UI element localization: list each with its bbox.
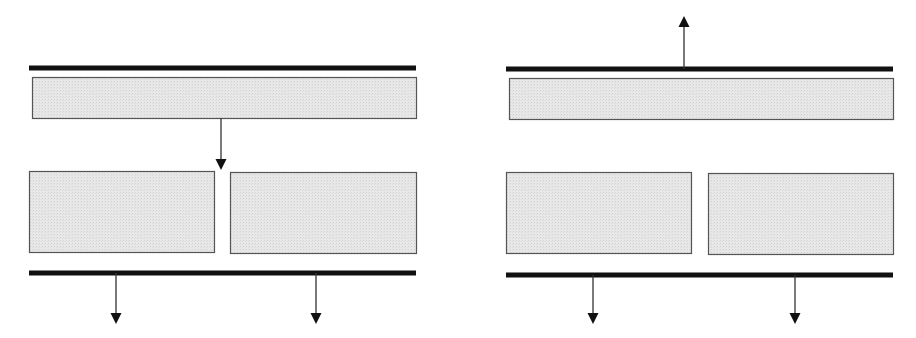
arrows-layer [111,16,801,324]
left-panel-bottom-right-block [231,173,417,254]
left-panel-output-down-arrow-left-icon [111,273,122,324]
left-panel-top-block [33,78,417,119]
right-panel-top-bar [506,67,893,72]
right-panel-bottom-bar [506,273,893,278]
blocks-layer [30,78,894,255]
left-panel-top-bar [29,66,416,71]
right-panel-output-down-arrow-right-icon [790,275,801,324]
left-panel-bottom-bar [29,271,416,276]
right-panel-output-up-arrow-icon [679,16,690,69]
left-panel-output-down-arrow-right-icon [311,273,322,324]
right-panel-bottom-left-block [507,173,692,254]
left-panel-internal-down-arrow-icon [216,118,227,170]
left-panel-bottom-left-block [30,172,215,253]
diagram-canvas [0,0,916,338]
right-panel-output-down-arrow-left-icon [588,275,599,324]
right-panel-top-block [510,79,894,120]
right-panel-bottom-right-block [709,174,894,255]
